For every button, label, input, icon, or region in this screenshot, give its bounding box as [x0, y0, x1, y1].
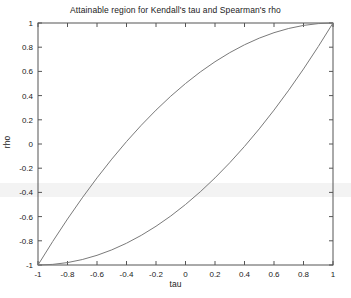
- y-axis-tick-labels: 10.80.60.40.20-0.2-0.4-0.6-0.8-1: [19, 19, 33, 270]
- svg-text:1: 1: [29, 19, 34, 28]
- svg-text:0.2: 0.2: [209, 270, 221, 279]
- plot-area: -1-0.8-0.6-0.4-0.200.20.40.60.81 10.80.6…: [0, 0, 351, 298]
- svg-text:0.8: 0.8: [22, 43, 34, 52]
- svg-text:0.4: 0.4: [22, 92, 34, 101]
- svg-text:-0.6: -0.6: [90, 270, 104, 279]
- svg-text:-0.4: -0.4: [120, 270, 134, 279]
- svg-text:0.6: 0.6: [268, 270, 280, 279]
- svg-text:-1: -1: [34, 270, 42, 279]
- lower-bound-curve: [38, 23, 333, 265]
- svg-text:1: 1: [331, 270, 336, 279]
- svg-text:0.2: 0.2: [22, 116, 34, 125]
- x-axis-tick-labels: -1-0.8-0.6-0.4-0.200.20.40.60.81: [34, 270, 335, 279]
- chart-figure: Attainable region for Kendall's tau and …: [0, 0, 351, 298]
- svg-text:0.6: 0.6: [22, 67, 34, 76]
- svg-text:0: 0: [183, 270, 188, 279]
- plot-border: [38, 23, 333, 265]
- svg-text:-0.8: -0.8: [61, 270, 75, 279]
- svg-text:-0.8: -0.8: [19, 237, 33, 246]
- upper-bound-curve: [38, 23, 333, 265]
- svg-text:0.4: 0.4: [239, 270, 251, 279]
- svg-text:-0.2: -0.2: [19, 164, 33, 173]
- svg-text:0: 0: [29, 140, 34, 149]
- y-axis-ticks: [38, 23, 333, 265]
- x-axis-label: tau: [0, 279, 351, 289]
- svg-text:-0.2: -0.2: [149, 270, 163, 279]
- svg-text:-1: -1: [26, 261, 34, 270]
- svg-text:0.8: 0.8: [298, 270, 310, 279]
- x-axis-ticks: [38, 23, 333, 265]
- svg-text:-0.6: -0.6: [19, 213, 33, 222]
- svg-text:-0.4: -0.4: [19, 188, 33, 197]
- y-axis-label: rho: [2, 122, 12, 162]
